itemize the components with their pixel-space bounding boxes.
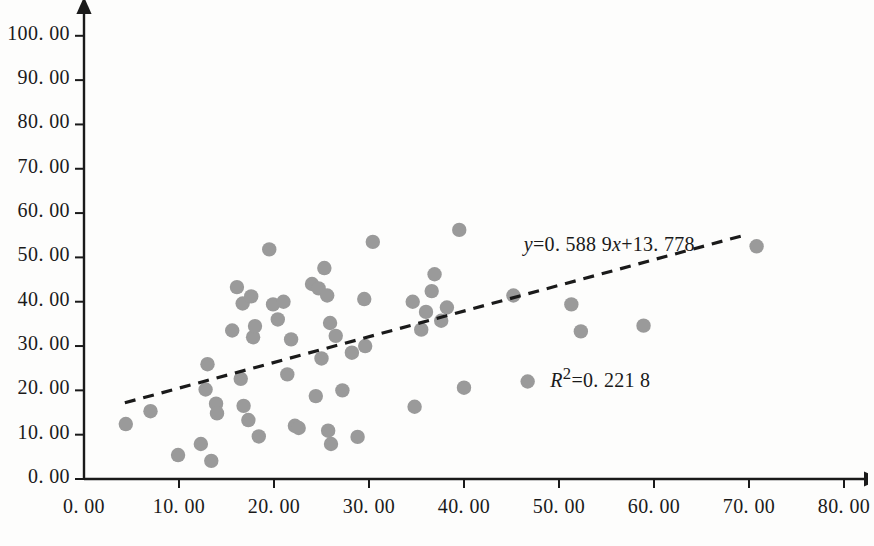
scatter-point bbox=[236, 399, 250, 413]
scatter-point bbox=[366, 235, 380, 249]
r-squared-value: =0. 221 8 bbox=[571, 369, 650, 391]
y-axis-tick-label: 60. 00 bbox=[0, 199, 70, 222]
scatter-point bbox=[419, 305, 433, 319]
axis-ticks bbox=[75, 36, 844, 488]
y-axis-tick-label: 50. 00 bbox=[0, 243, 70, 266]
scatter-point bbox=[225, 323, 239, 337]
regression-equation-text: y=0. 588 9x+13. 778 bbox=[492, 205, 695, 284]
scatter-point bbox=[198, 382, 212, 396]
scatter-point bbox=[440, 300, 454, 314]
y-axis-tick-label: 80. 00 bbox=[0, 110, 70, 133]
scatter-point bbox=[276, 295, 290, 309]
r-squared-text: R2=0. 221 8 bbox=[492, 337, 695, 420]
scatter-point bbox=[314, 351, 328, 365]
equation-coefficient: =0. 588 9 bbox=[533, 233, 612, 255]
axes bbox=[84, 12, 866, 479]
scatter-point bbox=[204, 454, 218, 468]
scatter-point bbox=[317, 261, 331, 275]
scatter-point bbox=[252, 429, 266, 443]
scatter-point bbox=[357, 292, 371, 306]
scatter-point bbox=[407, 400, 421, 414]
y-axis-tick-label: 40. 00 bbox=[0, 288, 70, 311]
scatter-point bbox=[200, 357, 214, 371]
y-axis-tick-label: 30. 00 bbox=[0, 332, 70, 355]
y-axis-tick-label: 90. 00 bbox=[0, 66, 70, 89]
scatter-point bbox=[335, 383, 349, 397]
scatter-point bbox=[230, 280, 244, 294]
scatter-point bbox=[171, 448, 185, 462]
scatter-point bbox=[284, 332, 298, 346]
r-squared-variable: R bbox=[550, 369, 563, 391]
equation-x-variable: x bbox=[612, 233, 621, 255]
scatter-point bbox=[248, 319, 262, 333]
scatter-point bbox=[119, 417, 133, 431]
scatter-point bbox=[271, 312, 285, 326]
scatter-point bbox=[323, 316, 337, 330]
scatter-point bbox=[425, 284, 439, 298]
scatter-point bbox=[320, 288, 334, 302]
scatter-point bbox=[244, 289, 258, 303]
scatter-point bbox=[749, 239, 763, 253]
y-axis-tick-label: 20. 00 bbox=[0, 376, 70, 399]
y-axis-tick-label: 0. 00 bbox=[0, 465, 70, 488]
scatter-point bbox=[292, 421, 306, 435]
scatter-point bbox=[309, 389, 323, 403]
equation-y-variable: y bbox=[524, 233, 533, 255]
scatter-point bbox=[143, 404, 157, 418]
scatter-point bbox=[241, 413, 255, 427]
scatter-point bbox=[350, 430, 364, 444]
scatter-point bbox=[414, 322, 428, 336]
scatter-point bbox=[280, 367, 294, 381]
scatter-point bbox=[358, 339, 372, 353]
scatter-point bbox=[324, 437, 338, 451]
x-axis-tick-label: 80. 00 bbox=[784, 495, 874, 518]
regression-annotation: y=0. 588 9x+13. 778 R2=0. 221 8 bbox=[492, 152, 695, 472]
scatter-point bbox=[345, 345, 359, 359]
scatter-point bbox=[194, 437, 208, 451]
y-axis-tick-label: 100. 00 bbox=[0, 22, 70, 45]
equation-intercept: +13. 778 bbox=[621, 233, 695, 255]
y-axis-tick-label: 70. 00 bbox=[0, 155, 70, 178]
scatter-point bbox=[427, 267, 441, 281]
scatter-point bbox=[457, 381, 471, 395]
scatter-point bbox=[452, 223, 466, 237]
scatter-point bbox=[210, 406, 224, 420]
scatter-point bbox=[329, 329, 343, 343]
scatter-point bbox=[262, 242, 276, 256]
scatter-point bbox=[321, 423, 335, 437]
scatter-point bbox=[406, 295, 420, 309]
y-axis-tick-label: 10. 00 bbox=[0, 421, 70, 444]
